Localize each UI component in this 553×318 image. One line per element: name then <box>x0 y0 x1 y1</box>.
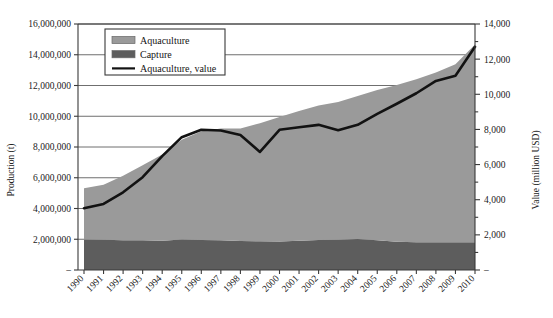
y-tick-label-left: 6,000,000 <box>33 173 71 183</box>
y-tick-label-right: 10,000 <box>484 90 510 100</box>
y-tick-label-left: 4,000,000 <box>33 204 71 214</box>
y-tick-label-left: 14,000,000 <box>28 50 71 60</box>
legend-label: Aquaculture <box>140 35 190 46</box>
y-tick-label-left: 10,000,000 <box>28 112 71 122</box>
y-tick-label-left: 12,000,000 <box>28 81 71 91</box>
y-tick-label-right: 2,000 <box>484 230 506 240</box>
y-tick-label-right: 4,000 <box>484 195 506 205</box>
y-tick-label-left: – <box>65 265 71 275</box>
area-capture <box>84 239 475 270</box>
y-tick-label-right: 12,000 <box>484 55 510 65</box>
y-tick-label-right: 6,000 <box>484 160 506 170</box>
legend-swatch-capture <box>112 51 135 58</box>
chart-legend: AquacultureCaptureAquaculture, value <box>105 29 225 75</box>
y-axis-left-title: Production (t) <box>6 143 17 196</box>
y-tick-label-right: 8,000 <box>484 125 506 135</box>
y-tick-label-left: 16,000,000 <box>28 19 71 29</box>
legend-label: Capture <box>140 49 172 60</box>
y-tick-label-right: – <box>483 265 489 275</box>
y-tick-label-left: 8,000,000 <box>33 142 71 152</box>
y-axis-left: –2,000,0004,000,0006,000,0008,000,00010,… <box>28 19 78 275</box>
legend-label: Aquaculture, value <box>140 63 217 74</box>
stacked-area-chart: –2,000,0004,000,0006,000,0008,000,00010,… <box>0 0 553 318</box>
legend-swatch-aquaculture <box>112 36 135 43</box>
y-tick-label-right: 14,000 <box>484 19 510 29</box>
chart-figure: –2,000,0004,000,0006,000,0008,000,00010,… <box>0 0 553 318</box>
y-tick-label-left: 2,000,000 <box>33 235 71 245</box>
y-axis-right-title: Value (million USD) <box>531 130 542 209</box>
